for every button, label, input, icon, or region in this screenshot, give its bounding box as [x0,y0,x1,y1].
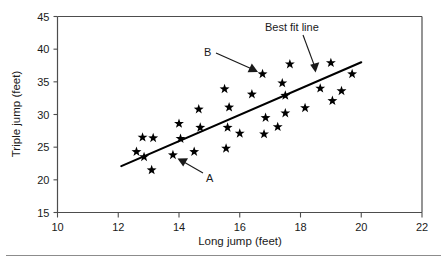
x-axis-title: Long jump (feet) [198,235,282,247]
y-tick-label: 15 [37,207,49,219]
a-arrow-head [178,158,189,166]
data-point [223,122,233,131]
data-point [194,104,204,113]
data-point [174,118,184,127]
x-tick-label: 16 [234,221,246,233]
data-point [347,69,357,78]
x-axis-ticks: 10121416182022 [51,213,428,233]
b-arrow-shaft [216,53,252,69]
x-tick-label: 10 [51,221,63,233]
chart-canvas: 15202530354045 10121416182022 Best fit l… [0,0,447,264]
data-point [147,165,157,174]
annotation-best-fit-line: Best fit line [265,21,319,73]
data-point [259,129,269,138]
x-tick-label: 18 [294,221,306,233]
data-point [261,113,271,122]
data-point-a [168,150,178,159]
annotation-a: A [178,158,215,184]
annotation-b: B [204,46,258,72]
data-point [315,83,325,92]
data-point [220,84,230,93]
data-point [224,102,234,111]
data-point [280,108,290,117]
y-axis-title: Triple jump (feet) [10,71,22,158]
data-point [189,147,199,156]
data-point-b [258,69,268,78]
data-point [273,122,283,131]
best-fit-line-label: Best fit line [265,21,319,33]
data-point [221,143,231,152]
x-tick-label: 20 [355,221,367,233]
best-fit-arrow-shaft [303,35,315,66]
y-tick-label: 30 [37,109,49,121]
y-tick-label: 25 [37,141,49,153]
x-tick-label: 22 [416,221,428,233]
data-point [327,96,337,105]
data-point [132,147,142,156]
y-tick-label: 35 [37,76,49,88]
data-point [300,103,310,112]
data-points [132,58,358,175]
best-fit-line [121,62,361,166]
label-b: B [204,46,211,58]
y-tick-label: 45 [37,11,49,23]
data-point [148,133,158,142]
y-axis-ticks: 15202530354045 [37,11,57,219]
data-point [326,58,336,67]
y-tick-label: 40 [37,43,49,55]
a-arrow-shaft [183,162,203,174]
data-point [138,132,148,141]
data-point [247,89,257,98]
data-point [285,59,295,68]
data-point [277,78,287,87]
label-a: A [206,172,214,184]
scatter-plot-figure: 15202530354045 10121416182022 Best fit l… [0,0,447,264]
y-tick-label: 20 [37,174,49,186]
best-fit-arrow-head [310,62,319,72]
x-tick-label: 14 [173,221,185,233]
data-point [337,86,347,95]
x-tick-label: 12 [112,221,124,233]
data-point [235,128,245,137]
